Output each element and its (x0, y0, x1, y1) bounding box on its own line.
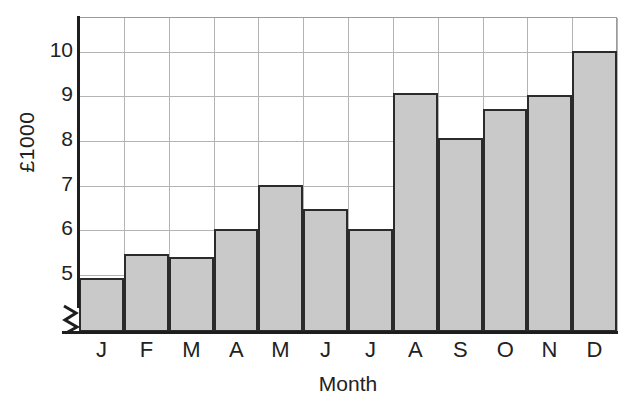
y-axis-tick-label: 10 (35, 39, 73, 60)
bars-layer (79, 18, 616, 332)
bar-june (303, 209, 348, 332)
x-axis-tick-labels: JFMAMJJASOND (79, 338, 617, 368)
bar-february (124, 254, 169, 332)
bar-may (258, 185, 303, 332)
x-axis-tick-label: M (258, 338, 303, 361)
y-axis-tick-label: 6 (35, 217, 73, 238)
y-axis-tick-label: 5 (35, 262, 73, 283)
y-axis-tick-label: 7 (35, 173, 73, 194)
y-axis-tick-label: 9 (35, 83, 73, 104)
plot-area (79, 17, 617, 332)
x-axis-tick-label: A (393, 338, 438, 361)
bar-december (572, 51, 617, 332)
x-axis-tick-label: N (527, 338, 572, 361)
bar-august (393, 93, 438, 332)
gridline-vertical (617, 18, 618, 332)
axis-break-icon (60, 300, 94, 336)
bar-july (348, 229, 393, 332)
x-axis-tick-label: O (483, 338, 528, 361)
x-axis-tick-label: D (572, 338, 617, 361)
x-axis-tick-label: M (169, 338, 214, 361)
bar-chart: £1000 1098765 JFMAMJJASOND Month (0, 0, 632, 412)
bar-september (438, 138, 483, 332)
bar-october (483, 109, 527, 332)
x-axis-tick-label: F (124, 338, 169, 361)
x-axis-line (62, 331, 618, 334)
bar-april (214, 229, 258, 332)
x-axis-tick-label: J (348, 338, 393, 361)
y-axis-line (77, 16, 80, 308)
bar-november (527, 95, 572, 332)
x-axis-tick-label: J (303, 338, 348, 361)
x-axis-tick-label: J (79, 338, 124, 361)
x-axis-tick-label: S (438, 338, 483, 361)
x-axis-tick-label: A (214, 338, 259, 361)
x-axis-title: Month (79, 372, 617, 396)
y-axis-tick-label: 8 (35, 128, 73, 149)
bar-march (169, 257, 214, 332)
y-axis-tick-labels: 1098765 (20, 0, 73, 412)
